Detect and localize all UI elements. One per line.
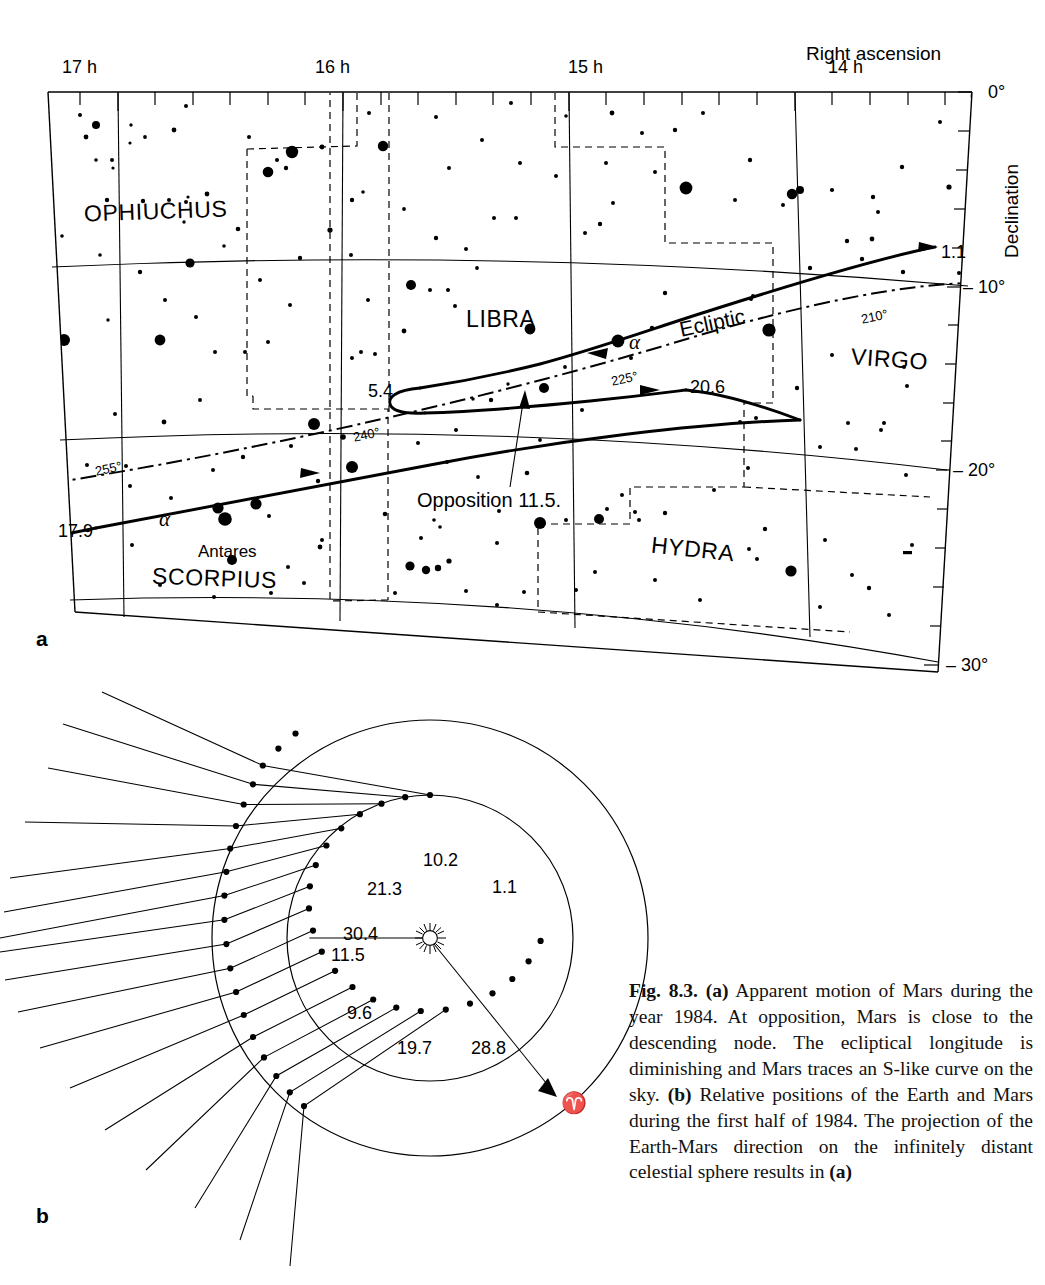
ra-tick-14h: 14 h [828,58,863,76]
mars-date-20-6: 20.6 [690,378,725,396]
dec-ticks-right [924,92,972,665]
constellation-boundaries [247,93,930,632]
mars-positions [221,730,307,1109]
panel-label-b: b [36,1205,49,1226]
orbit-diagram-panel-b [0,680,680,1280]
mars-date-1-1: 1.1 [941,243,966,261]
ra-tick-16h: 16 h [315,58,350,76]
caption-a-tag: (a) [698,980,729,1001]
mars-date-17-9: 17.9 [58,522,93,540]
orbit-date-11-5: 11.5 [331,946,365,964]
mars-date-5-4: 5.4 [368,382,393,400]
vernal-equinox-symbol: ♈ [561,1093,587,1114]
orbit-date-1-1: 1.1 [492,878,517,896]
orbit-date-10-2: 10.2 [423,851,458,869]
ra-ticks-top [80,92,945,111]
orbit-date-19-7: 19.7 [397,1039,432,1057]
dec-tick-0: 0° [988,83,1005,101]
dec-tick-m10: – 10° [963,278,1005,296]
vernal-equinox-direction [434,944,557,1097]
orbit-date-30-4: 30.4 [343,925,378,943]
orbit-date-9-6: 9.6 [347,1004,372,1022]
constellation-scorpius: SCORPIUS [152,565,278,592]
figure-caption: Fig. 8.3. (a) Apparent motion of Mars du… [629,978,1033,1185]
caption-a-tag-end: (a) [829,1161,852,1182]
alpha-librae-label: α [629,332,640,353]
star-field [58,91,981,617]
caption-b-tag: (b) [668,1084,692,1105]
earth-positions [306,792,544,1014]
ra-tick-15h: 15 h [568,58,603,76]
opposition-label: Opposition 11.5. [417,490,561,510]
earth-mars-sightlines [0,692,446,1266]
ra-axis-title: Right ascension [806,44,941,63]
dec-tick-m30: – 30° [946,656,988,674]
constellation-libra: LIBRA [466,308,535,331]
panel-label-a: a [36,628,48,649]
star-name-antares: Antares [198,543,257,560]
dec-tick-m20: – 20° [953,461,995,479]
orbit-date-21-3: 21.3 [367,880,402,898]
ra-tick-17h: 17 h [62,58,97,76]
figure-page: Right ascension Declination 17 h 16 h 15… [0,0,1045,1285]
alpha-scorpii-label: α [159,509,170,530]
constellation-virgo: VIRGO [850,345,929,373]
dec-axis-title: Declination [1002,164,1021,258]
constellation-ophiuchus: OPHIUCHUS [84,198,228,226]
orbit-date-28-8: 28.8 [471,1039,506,1057]
caption-figure-number: Fig. 8.3. [629,980,698,1001]
